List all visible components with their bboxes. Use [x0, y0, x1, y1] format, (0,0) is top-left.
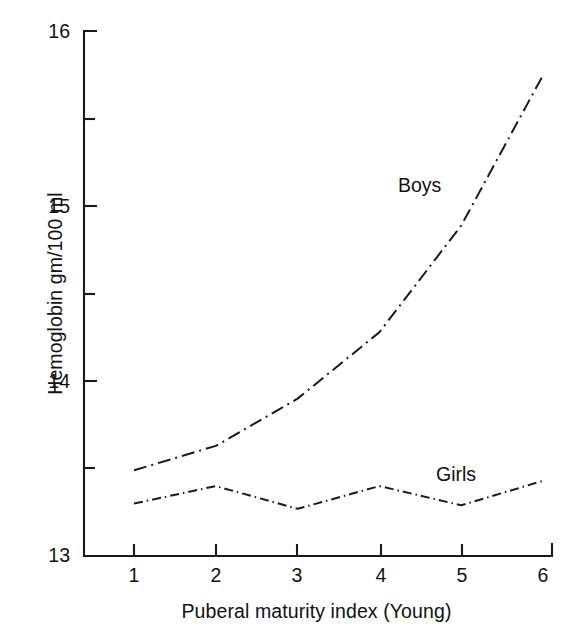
series-line-boys — [134, 75, 543, 470]
series-line-girls — [134, 481, 543, 509]
y-axis-ticks — [84, 119, 97, 468]
axis-spines — [84, 31, 552, 556]
plot-area — [0, 0, 571, 637]
hemoglobin-puberal-maturity-chart: Hemoglobin gm/100 ml 16 15 14 13 1 2 3 4… — [0, 0, 571, 637]
x-axis-ticks — [134, 544, 462, 556]
